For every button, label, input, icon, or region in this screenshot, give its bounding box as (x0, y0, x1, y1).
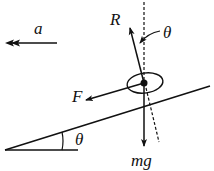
weight-label: mg (131, 151, 152, 170)
normal-dashed-line (146, 88, 159, 142)
free-body-diagram: a θ R θ F mg (0, 0, 214, 171)
normal-angle-pointer (140, 31, 160, 43)
incline-surface (5, 86, 210, 150)
normal-force-label: R (109, 10, 121, 29)
applied-force-arrow (86, 83, 144, 100)
applied-force-label: F (71, 87, 83, 106)
acceleration-label: a (34, 19, 43, 38)
incline-angle-arc (62, 132, 63, 150)
incline-angle-label: θ (75, 130, 83, 149)
acceleration-arrow (5, 40, 57, 47)
normal-angle-label: θ (163, 23, 171, 42)
